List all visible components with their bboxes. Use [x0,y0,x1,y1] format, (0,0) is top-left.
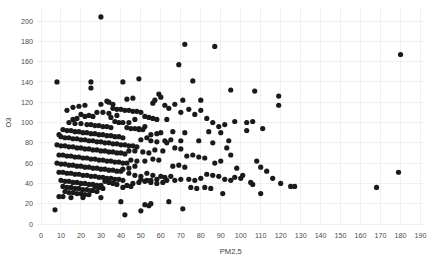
data-point [216,174,221,179]
data-point [100,186,105,191]
y-tick-label: 180 [21,37,33,46]
data-point [278,181,283,186]
data-point [126,166,131,171]
data-point [78,121,83,126]
data-point [136,76,141,81]
data-point [172,102,177,107]
data-point [160,148,165,153]
x-tick-label: 10 [57,231,65,240]
data-points-layer [52,14,403,217]
data-point [108,115,113,120]
data-point [118,199,123,204]
data-point [158,95,163,100]
data-point [132,148,137,153]
data-point [194,186,199,191]
data-point [148,138,153,143]
data-point [154,117,159,122]
data-point [250,119,255,124]
x-tick-label: 80 [197,231,205,240]
data-point [202,155,207,160]
x-tick-label: 170 [375,231,387,240]
x-tick-label: 160 [355,231,367,240]
data-point [188,185,193,190]
x-tick-label: 150 [335,231,347,240]
y-tick-label: 160 [21,57,33,66]
data-point [142,158,147,163]
data-point [220,191,225,196]
data-point [132,164,137,169]
data-point [128,157,133,162]
data-point [98,102,103,107]
x-tick-label: 90 [217,231,225,240]
data-point [66,120,71,125]
data-point [154,139,159,144]
x-tick-label: 100 [235,231,247,240]
data-point [76,104,81,109]
data-point [120,79,125,84]
data-point [148,201,153,206]
x-tick-label: 120 [275,231,287,240]
data-point [130,96,135,101]
x-tick-label: 0 [39,231,43,240]
data-point [224,145,229,150]
data-point [190,152,195,157]
data-point [142,124,147,129]
x-tick-label: 70 [177,231,185,240]
data-point [126,120,131,125]
data-point [186,107,191,112]
data-point [258,165,263,170]
data-point [216,124,221,129]
data-point [146,150,151,155]
x-tick-label: 140 [315,231,327,240]
data-point [176,163,181,168]
data-point [176,62,181,67]
data-point [276,94,281,99]
data-point [132,117,137,122]
y-tick-label: 0 [29,220,33,229]
data-point [240,173,245,178]
data-point [154,181,159,186]
data-point [144,171,149,176]
data-point [98,14,103,19]
data-point [178,110,183,115]
data-point [86,192,91,197]
x-tick-label: 30 [97,231,105,240]
data-point [138,208,143,213]
data-point [80,195,85,200]
data-point [164,117,169,122]
data-point [228,87,233,92]
data-point [196,154,201,159]
data-point [162,138,167,143]
data-point [94,110,99,115]
data-point [398,52,403,57]
data-point [126,171,131,176]
data-point [178,177,183,182]
data-point [210,120,215,125]
data-point [212,161,217,166]
data-point [202,185,207,190]
data-point [206,129,211,134]
data-point [150,156,155,161]
data-point [222,177,227,182]
data-point [182,165,187,170]
data-point [60,194,65,199]
data-point [170,129,175,134]
data-point [140,149,145,154]
data-point [178,138,183,143]
data-point [182,42,187,47]
data-point [114,182,119,187]
y-tick-label: 20 [25,199,33,208]
data-point [148,132,153,137]
data-point [120,120,125,125]
data-point [150,173,155,178]
scatter-chart-container: 0102030405060708090100110120130140150160… [0,0,438,266]
data-point [244,120,249,125]
data-point [204,116,209,121]
data-point [88,85,93,90]
data-point [180,98,185,103]
data-point [184,153,189,158]
data-point [212,44,217,49]
data-point [172,178,177,183]
data-point [108,125,113,130]
data-point [204,172,209,177]
